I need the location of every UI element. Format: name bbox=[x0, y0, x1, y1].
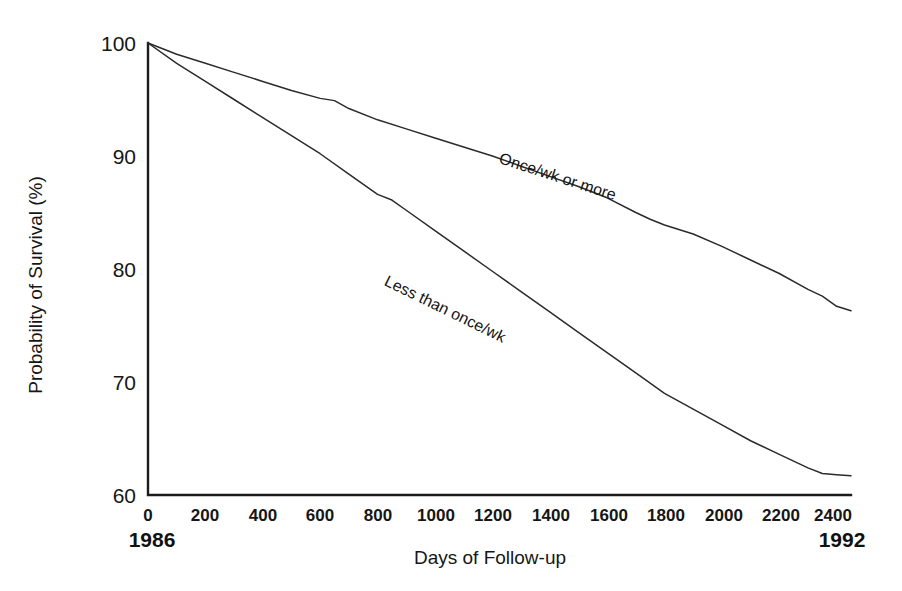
x-tick-label: 2400 bbox=[814, 506, 852, 525]
end-year-label: 1992 bbox=[819, 528, 866, 551]
x-tick-label: 1800 bbox=[647, 506, 685, 525]
y-axis-tick-labels: 100 90 80 70 60 bbox=[101, 32, 136, 507]
x-axis-tick-labels: 0 200 400 600 800 1000 1200 1400 1600 18… bbox=[143, 506, 852, 525]
x-tick-label: 2000 bbox=[705, 506, 743, 525]
series-label-once-per-week-or-more: Once/wk or more bbox=[497, 149, 618, 203]
y-tick-label: 100 bbox=[101, 32, 136, 55]
kaplan-meier-plot: 100 90 80 70 60 0 200 400 600 800 1000 1… bbox=[0, 0, 902, 591]
x-tick-label: 1400 bbox=[532, 506, 570, 525]
x-tick-label: 0 bbox=[143, 506, 152, 525]
x-axis-title: Days of Follow-up bbox=[414, 547, 566, 568]
y-axis-title: Probability of Survival (%) bbox=[25, 176, 46, 394]
x-tick-label: 400 bbox=[249, 506, 277, 525]
x-tick-label: 1000 bbox=[417, 506, 455, 525]
x-tick-label: 1600 bbox=[590, 506, 628, 525]
x-tick-label: 600 bbox=[306, 506, 334, 525]
survival-curve-once-per-week-or-more bbox=[148, 43, 851, 311]
survival-curve-less-than-once-per-week bbox=[148, 43, 851, 476]
x-tick-label: 2200 bbox=[762, 506, 800, 525]
x-tick-label: 800 bbox=[364, 506, 392, 525]
series-label-less-than-once-per-week: Less than once/wk bbox=[382, 272, 509, 346]
start-year-label: 1986 bbox=[129, 528, 176, 551]
axis-spines bbox=[148, 43, 851, 495]
y-tick-label: 90 bbox=[113, 145, 136, 168]
y-tick-label: 80 bbox=[113, 258, 136, 281]
y-tick-label: 60 bbox=[113, 484, 136, 507]
x-tick-label: 1200 bbox=[474, 506, 512, 525]
x-tick-label: 200 bbox=[191, 506, 219, 525]
survival-curve-figure: 100 90 80 70 60 0 200 400 600 800 1000 1… bbox=[0, 0, 902, 591]
y-tick-label: 70 bbox=[113, 371, 136, 394]
